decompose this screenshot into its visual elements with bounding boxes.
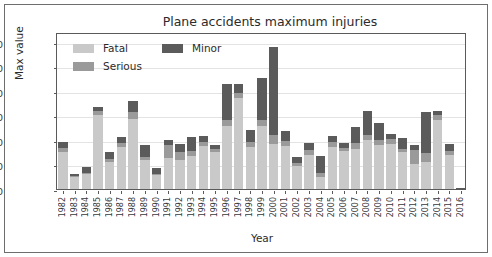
legend-label-minor: Minor (192, 42, 221, 54)
x-tick-label: 2007 (352, 197, 360, 217)
y-tick-label: 200 (0, 136, 3, 147)
bar-group (257, 78, 266, 189)
bar-segment-fatal (304, 155, 313, 189)
x-tick-label: 2011 (399, 197, 407, 217)
x-tick-label: 1995 (211, 197, 219, 217)
bar-segment-fatal (257, 126, 266, 189)
x-tick-mark (262, 191, 263, 194)
bar-segment-minor (374, 123, 383, 140)
bar-segment-minor (234, 84, 243, 93)
x-tick-label: 1985 (94, 197, 102, 217)
x-tick-mark (391, 191, 392, 194)
bar-group (164, 140, 173, 189)
x-tick-label: 2016 (457, 197, 465, 217)
bar-segment-fatal (82, 174, 91, 189)
x-tick-label: 2013 (422, 197, 430, 217)
y-axis-label: Max value (13, 26, 25, 80)
bar-segment-minor (398, 138, 407, 149)
x-tick-label: 2003 (305, 197, 313, 217)
legend-label-fatal: Fatal (103, 42, 128, 54)
x-tick-label: 1999 (258, 197, 266, 217)
bar-segment-serious (164, 145, 173, 158)
bar-segment-serious (257, 120, 266, 127)
bar-segment-minor (257, 78, 266, 120)
x-tick-mark (168, 191, 169, 194)
legend-label-serious: Serious (103, 60, 142, 72)
x-tick-mark (449, 191, 450, 194)
bar-segment-minor (175, 144, 184, 153)
bar-group (433, 111, 442, 190)
bar-segment-minor (363, 111, 372, 136)
x-tick-label: 1992 (176, 197, 184, 217)
legend-item-fatal: Fatal (73, 42, 128, 54)
bar-segment-fatal (410, 164, 419, 189)
x-tick-label: 1984 (82, 197, 90, 217)
x-tick-mark (367, 191, 368, 194)
bar-group (304, 143, 313, 189)
bar-segment-fatal (316, 177, 325, 189)
x-tick-mark (438, 191, 439, 194)
y-tick-label: 500 (0, 63, 3, 74)
legend-item-serious: Serious (73, 60, 142, 72)
x-tick-label: 2010 (387, 197, 395, 217)
chart-title: Plane accidents maximum injuries (60, 14, 480, 29)
x-tick-mark (332, 191, 333, 194)
x-tick-mark (239, 191, 240, 194)
y-tick-label: 400 (0, 87, 3, 98)
bar-segment-serious (421, 153, 430, 162)
x-tick-mark (227, 191, 228, 194)
bar-segment-minor (316, 156, 325, 173)
legend-swatch-serious (73, 62, 94, 71)
x-tick-mark (250, 191, 251, 194)
x-tick-mark (110, 191, 111, 194)
bar-group (292, 157, 301, 189)
x-tick-mark (414, 191, 415, 194)
x-tick-mark (285, 191, 286, 194)
bar-group (199, 136, 208, 189)
bar-group (117, 137, 126, 189)
bar-segment-fatal (421, 162, 430, 189)
x-tick-mark (192, 191, 193, 194)
y-tick-label: 300 (0, 112, 3, 123)
x-tick-label: 1996 (223, 197, 231, 217)
x-tick-mark (274, 191, 275, 194)
bar-group (328, 136, 337, 189)
bar-group (386, 134, 395, 189)
bar-group (421, 112, 430, 189)
bar-segment-fatal (70, 177, 79, 189)
bar-segment-fatal (93, 115, 102, 189)
bar-segment-minor (105, 152, 114, 159)
chart-figure: Plane accidents maximum injuries Max val… (0, 0, 492, 257)
legend-swatch-minor (162, 44, 183, 53)
bar-segment-fatal (374, 145, 383, 189)
x-tick-label: 1997 (235, 197, 243, 217)
x-tick-label: 2000 (270, 197, 278, 217)
x-tick-mark (356, 191, 357, 194)
bar-segment-fatal (140, 160, 149, 189)
bar-segment-fatal (445, 155, 454, 189)
bar-segment-fatal (292, 166, 301, 189)
x-tick-mark (426, 191, 427, 194)
x-tick-mark (98, 191, 99, 194)
bar-group (351, 127, 360, 189)
bar-segment-fatal (128, 119, 137, 189)
bar-group (456, 188, 465, 189)
x-tick-label: 1982 (59, 197, 67, 217)
x-tick-label: 1988 (129, 197, 137, 217)
bar-segment-fatal (386, 144, 395, 189)
bar-group (93, 107, 102, 189)
x-tick-mark (461, 191, 462, 194)
bar-segment-minor (222, 84, 231, 121)
bar-segment-minor (304, 143, 313, 150)
x-tick-label: 2005 (328, 197, 336, 217)
bar-segment-fatal (164, 158, 173, 189)
bar-group (246, 130, 255, 189)
bar-segment-serious (410, 150, 419, 165)
bar-segment-minor (281, 131, 290, 141)
bar-segment-fatal (117, 147, 126, 189)
x-tick-mark (133, 191, 134, 194)
bar-segment-minor (187, 137, 196, 152)
x-tick-label: 1993 (188, 197, 196, 217)
bar-segment-fatal (105, 162, 114, 189)
bar-segment-minor (246, 130, 255, 142)
